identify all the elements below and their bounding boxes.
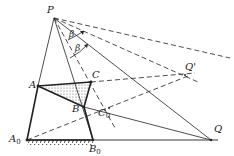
dashed-ray-top (54, 18, 230, 58)
linkage-diagram: P A C B A0 B0 Q Q' C0 β β (0, 0, 234, 156)
label-P: P (47, 5, 54, 15)
ray-PQ (54, 18, 211, 140)
dashed-line-CQprime (91, 73, 195, 82)
crank-A0A (27, 86, 38, 140)
label-B0: B0 (89, 144, 101, 156)
label-C0: C0 (98, 108, 110, 120)
label-Q: Q (214, 124, 222, 134)
angle-beta-1: β (69, 30, 74, 39)
label-Qprime: Q' (185, 62, 196, 72)
label-C: C (92, 70, 100, 80)
angle-beta-2: β (75, 44, 80, 53)
ray-PA (38, 18, 54, 86)
diagram-lines (0, 0, 234, 156)
label-A0: A0 (9, 134, 21, 146)
label-A: A (29, 80, 36, 90)
label-B: B (72, 104, 79, 114)
